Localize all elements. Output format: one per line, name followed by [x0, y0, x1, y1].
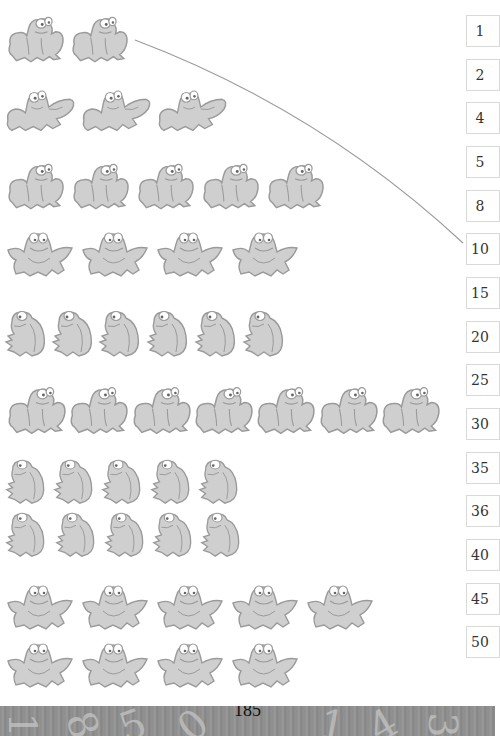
answer-label: 50	[471, 634, 489, 650]
smiling-frog-icon	[4, 580, 76, 636]
smiling-frog-icon	[229, 638, 301, 694]
side-frog-icon	[4, 455, 48, 507]
sitting-frog-icon	[134, 158, 196, 214]
smiling-frog-icon	[154, 224, 226, 286]
sitting-frog-icon	[316, 380, 380, 440]
answer-box-2[interactable]: 2	[466, 59, 500, 91]
sitting-frog-icon	[68, 10, 130, 68]
answer-label: 2	[476, 67, 485, 83]
sitting-frog-icon	[253, 380, 317, 440]
answer-box-45[interactable]: 45	[466, 583, 500, 615]
answer-box-5[interactable]: 5	[466, 146, 500, 178]
side-frog-icon	[52, 455, 96, 507]
page-number: 185	[0, 706, 495, 721]
answer-box-36[interactable]: 36	[466, 495, 500, 527]
side-frog-icon	[4, 305, 48, 361]
answer-label: 25	[471, 372, 489, 388]
answer-label: 5	[476, 154, 485, 170]
side-frog-icon	[199, 508, 243, 560]
answer-label: 1	[476, 23, 485, 39]
smiling-frog-icon	[154, 580, 226, 636]
answer-box-10[interactable]: 10	[466, 233, 500, 265]
side-frog-icon	[4, 508, 48, 560]
answer-box-15[interactable]: 15	[466, 277, 500, 309]
answer-box-20[interactable]: 20	[466, 321, 500, 353]
answer-label: 45	[471, 591, 489, 607]
answer-label: 10	[471, 241, 489, 257]
side-frog-icon	[54, 508, 98, 560]
side-frog-icon	[149, 455, 193, 507]
answer-label: 20	[471, 329, 489, 345]
answer-box-50[interactable]: 50	[466, 626, 500, 658]
sitting-frog-icon	[4, 158, 66, 214]
page-footer: 1850143 185	[0, 706, 495, 736]
sitting-frog-icon	[264, 158, 326, 214]
smiling-frog-icon	[79, 224, 151, 286]
answer-box-35[interactable]: 35	[466, 452, 500, 484]
leaping-frog-icon	[4, 80, 78, 140]
side-frog-icon	[51, 305, 95, 361]
sitting-frog-icon	[129, 380, 193, 440]
smiling-frog-icon	[79, 638, 151, 694]
answer-label: 30	[471, 416, 489, 432]
answer-box-25[interactable]: 25	[466, 364, 500, 396]
side-frog-icon	[194, 305, 238, 361]
sitting-frog-icon	[378, 380, 442, 440]
side-frog-icon	[100, 455, 144, 507]
sitting-frog-icon	[4, 380, 68, 440]
smiling-frog-icon	[154, 638, 226, 694]
answer-label: 8	[476, 198, 485, 214]
smiling-frog-icon	[229, 224, 301, 286]
smiling-frog-icon	[304, 580, 376, 636]
side-frog-icon	[197, 455, 241, 507]
answer-box-40[interactable]: 40	[466, 539, 500, 571]
answer-label: 40	[471, 547, 489, 563]
leaping-frog-icon	[80, 80, 154, 140]
leaping-frog-icon	[156, 80, 230, 140]
sitting-frog-icon	[199, 158, 261, 214]
answer-box-30[interactable]: 30	[466, 408, 500, 440]
sitting-frog-icon	[69, 158, 131, 214]
answer-label: 15	[471, 285, 489, 301]
smiling-frog-icon	[229, 580, 301, 636]
smiling-frog-icon	[4, 224, 76, 286]
sitting-frog-icon	[66, 380, 130, 440]
side-frog-icon	[98, 305, 142, 361]
sitting-frog-icon	[4, 10, 66, 68]
answer-label: 35	[471, 460, 489, 476]
smiling-frog-icon	[79, 580, 151, 636]
side-frog-icon	[146, 305, 190, 361]
smiling-frog-icon	[4, 638, 76, 694]
answer-label: 36	[471, 503, 489, 519]
answer-box-8[interactable]: 8	[466, 190, 500, 222]
sitting-frog-icon	[191, 380, 255, 440]
side-frog-icon	[103, 508, 147, 560]
answer-box-1[interactable]: 1	[466, 15, 500, 47]
answer-box-4[interactable]: 4	[466, 102, 500, 134]
side-frog-icon	[151, 508, 195, 560]
answer-label: 4	[476, 110, 485, 126]
side-frog-icon	[242, 305, 286, 361]
